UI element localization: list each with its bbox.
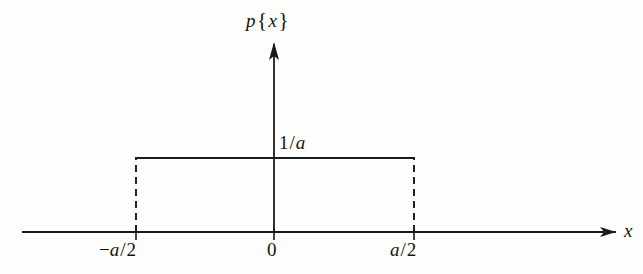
right-bound-slash: / [400, 239, 407, 260]
right-bound-numerator: a [390, 239, 400, 260]
y-axis-label-variable: x [269, 10, 278, 31]
amplitude-label: 1/a [279, 133, 305, 152]
left-bound-minus-sign: − [99, 239, 110, 260]
figure-canvas [0, 0, 643, 274]
amplitude-slash: / [289, 132, 296, 153]
x-axis-label: x [624, 221, 632, 240]
x-tick-label-left-bound: −a/2 [99, 240, 136, 259]
left-bound-denominator: 2 [127, 239, 137, 260]
uniform-density-figure: p{x} 1/a −a/2 0 a/2 x [0, 0, 643, 274]
amplitude-numerator: 1 [279, 132, 289, 153]
y-axis-label-open-brace: { [256, 8, 269, 32]
y-axis-label-function: p [246, 10, 256, 31]
left-bound-numerator: a [110, 239, 120, 260]
left-bound-slash: / [119, 239, 126, 260]
y-axis-label-close-brace: } [278, 8, 291, 32]
x-tick-label-right-bound: a/2 [390, 240, 416, 259]
y-axis-label: p{x} [246, 10, 290, 31]
right-bound-denominator: 2 [407, 239, 417, 260]
x-tick-label-origin: 0 [267, 240, 277, 259]
amplitude-denominator: a [296, 132, 306, 153]
